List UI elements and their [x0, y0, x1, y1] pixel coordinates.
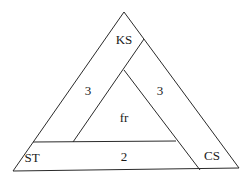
left-band-inner-line [73, 39, 144, 142]
label-right-band: 3 [157, 84, 164, 97]
label-cs: CS [204, 149, 220, 162]
label-fr: fr [120, 111, 129, 124]
label-ks: KS [116, 33, 133, 46]
diagram-canvas: KS ST CS fr 3 3 2 [0, 0, 249, 179]
bottom-band-line [33, 141, 176, 142]
label-st: ST [24, 151, 39, 164]
label-left-band: 3 [85, 84, 92, 97]
label-bottom-band: 2 [121, 150, 128, 163]
